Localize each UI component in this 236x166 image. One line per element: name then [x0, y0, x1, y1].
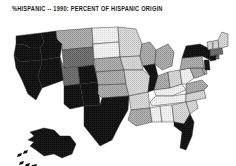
state-MO: [124, 70, 150, 96]
state-PA: [180, 56, 204, 70]
state-CA: [14, 55, 42, 100]
state-RI: [216, 55, 219, 59]
state-ND: [92, 27, 119, 44]
state-AK: [28, 128, 76, 158]
state-WI: [140, 42, 156, 66]
alaska-aleutians-2: [23, 150, 28, 154]
state-AL: [160, 105, 174, 122]
state-IA: [120, 56, 143, 70]
hawaii-inset: [19, 161, 37, 166]
state-HI-3: [31, 164, 37, 166]
state-VT: [207, 41, 213, 50]
figure-title: %HISPANIC -- 1990: PERCENT OF HISPANIC O…: [12, 5, 163, 12]
state-CO: [78, 65, 98, 84]
state-MN: [118, 27, 142, 57]
state-KS: [96, 70, 126, 85]
state-OK: [98, 84, 129, 98]
state-HI-1: [19, 161, 24, 165]
state-NE: [94, 57, 124, 72]
map-figure: %HISPANIC -- 1990: PERCENT OF HISPANIC O…: [0, 0, 236, 166]
state-LA: [128, 108, 152, 126]
alaska-aleutians: [17, 153, 22, 157]
state-WY: [62, 47, 94, 68]
alaska-inset: [17, 128, 76, 158]
state-NV: [38, 57, 64, 88]
state-NJ: [204, 60, 210, 70]
state-ME: [218, 32, 228, 48]
us-choropleth-svg: [0, 14, 236, 166]
state-HI-2: [25, 163, 30, 166]
state-SD: [93, 42, 120, 59]
state-MI: [155, 44, 174, 70]
map-canvas: [0, 14, 236, 166]
